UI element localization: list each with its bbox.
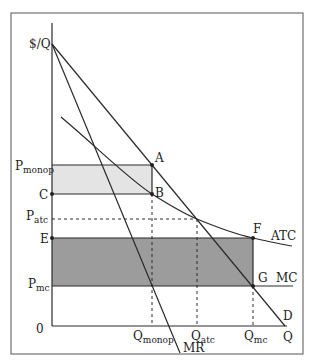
point-g-label: G <box>258 271 268 285</box>
e-label: E <box>40 232 49 246</box>
point-b-label: B <box>155 186 164 200</box>
point-f-label: F <box>253 222 261 236</box>
q-mc-label: Qmc <box>244 329 267 345</box>
p-atc-label: Patc <box>26 209 48 225</box>
q-monop-label: Qmonop <box>133 329 174 345</box>
atc-label: ATC <box>270 229 296 243</box>
c-dot <box>50 192 54 196</box>
p-mc-label: Pmc <box>28 277 50 293</box>
mr-label: MR <box>183 341 205 355</box>
c-label: C <box>39 188 48 202</box>
point-a-label: A <box>154 151 164 165</box>
point-g <box>251 284 255 288</box>
point-a <box>150 163 154 167</box>
demand-label: D <box>283 309 293 323</box>
y-axis-label: $/Q <box>29 37 51 51</box>
origin-label: 0 <box>36 322 44 336</box>
x-axis-label: Q <box>283 330 293 344</box>
p-monop-label: Pmonop <box>15 159 54 175</box>
monopoly-profit-area <box>52 165 152 194</box>
mc-label: MC <box>276 271 297 285</box>
e-dot <box>50 236 54 240</box>
economics-diagram: $/Q 0 Q Pmonop C Patc E Pmc Qmonop Qatc … <box>0 0 311 364</box>
point-f <box>251 236 255 240</box>
point-b <box>150 192 154 196</box>
